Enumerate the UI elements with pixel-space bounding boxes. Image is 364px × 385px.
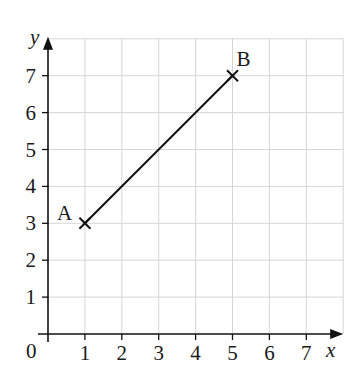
point-label-a: A [57, 201, 73, 225]
x-axis-label: x [325, 338, 336, 362]
y-tick-label: 7 [26, 64, 37, 88]
x-tick-label: 4 [190, 341, 201, 365]
grid-lines [48, 39, 343, 334]
y-tick-label: 4 [26, 174, 37, 198]
y-axis-label: y [28, 25, 40, 49]
x-tick-label: 3 [153, 341, 164, 365]
x-tick-label: 5 [227, 341, 238, 365]
y-tick-label: 1 [26, 285, 37, 309]
x-tick-label: 2 [117, 341, 128, 365]
y-tick-label: 3 [26, 211, 37, 235]
point-label-b: B [237, 47, 251, 71]
x-tick-label: 7 [301, 341, 312, 365]
x-tick-label: 1 [80, 341, 91, 365]
y-tick-label: 6 [26, 101, 37, 125]
line-segment-ab: AB [57, 47, 251, 229]
x-tick-label: 6 [264, 341, 275, 365]
coordinate-grid-chart: 12345671234567 AB x y 0 [0, 0, 364, 385]
axes [38, 37, 343, 342]
y-tick-label: 5 [26, 138, 37, 162]
y-tick-label: 2 [26, 248, 37, 272]
origin-label: 0 [26, 339, 37, 363]
